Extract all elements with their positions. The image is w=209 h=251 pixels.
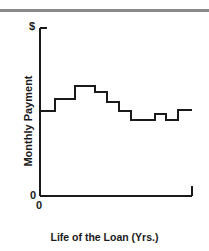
chart-figure: $ 0 0 Monthly Payment Life of the Loan (… [0, 0, 209, 251]
y-axis-top-label: $ [29, 20, 35, 32]
x-axis-title: Life of the Loan (Yrs.) [0, 231, 209, 243]
step-line-series [40, 86, 192, 120]
x-axis [40, 186, 192, 196]
y-axis-title: Monthly Payment [22, 51, 34, 191]
x-axis-origin-label: 0 [36, 199, 42, 211]
